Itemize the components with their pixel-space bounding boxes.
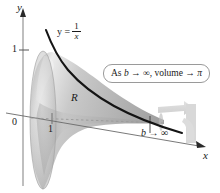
callout-limit-value: π bbox=[197, 68, 202, 78]
callout-prefix: As bbox=[111, 68, 124, 78]
x-axis-tick-label-1: 1 bbox=[48, 124, 53, 134]
y-axis-label: y bbox=[17, 2, 22, 13]
equation-numerator: 1 bbox=[72, 22, 81, 31]
gabriels-horn-figure: y x 1 0 1 R y = 1 x b → ∞ As b → ∞, volu… bbox=[0, 0, 220, 193]
equation-lhs: y = bbox=[57, 27, 70, 37]
volume-limit-callout: As b → ∞, volume → π bbox=[103, 64, 210, 83]
callout-middle: → ∞, volume → bbox=[129, 68, 198, 78]
x-axis-arrowhead bbox=[196, 141, 206, 148]
y-axis-tick-label-1: 1 bbox=[12, 44, 17, 54]
figure-canvas bbox=[0, 0, 220, 193]
region-label-R: R bbox=[71, 92, 78, 103]
equation-fraction: 1 x bbox=[72, 22, 81, 41]
curve-equation-label: y = 1 x bbox=[57, 22, 81, 41]
b-arrow-infinity: → ∞ bbox=[146, 127, 168, 138]
b-limit-label: b → ∞ bbox=[141, 128, 168, 138]
origin-label: 0 bbox=[12, 117, 17, 127]
equation-denominator: x bbox=[72, 32, 80, 41]
x-axis-label: x bbox=[203, 150, 208, 161]
